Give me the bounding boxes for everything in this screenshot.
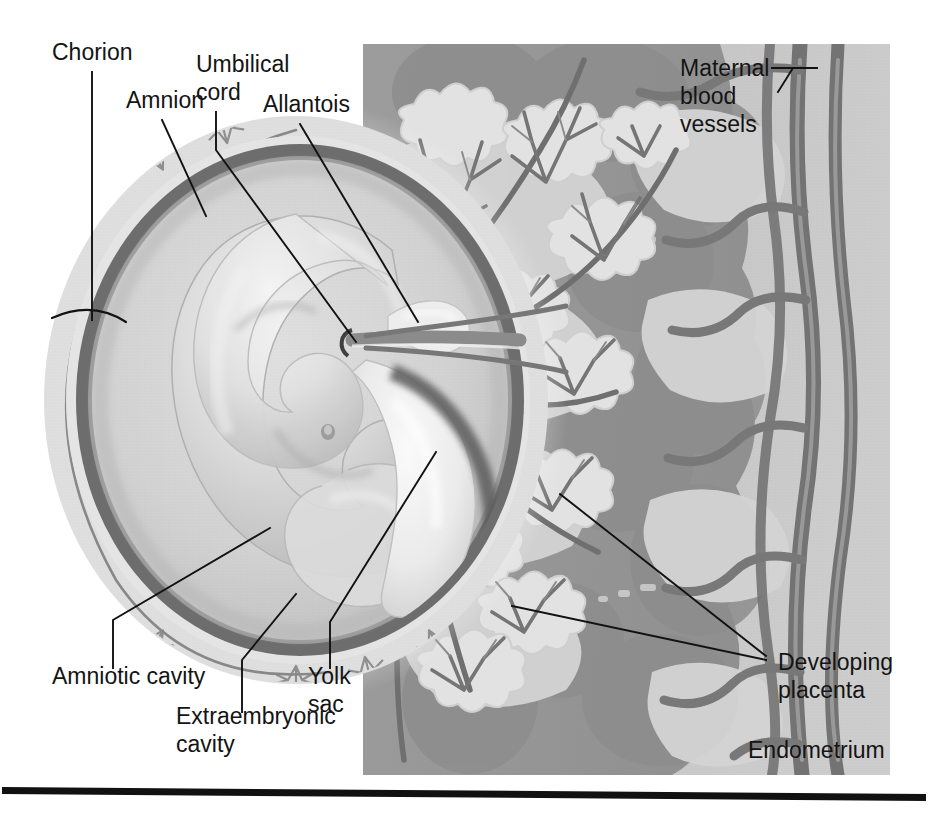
label-endometrium: Endometrium — [748, 737, 885, 763]
label-umbilical-cord-line1: Umbilical — [196, 51, 289, 77]
label-allantois: Allantois — [263, 91, 350, 117]
label-developing-placenta-line2: placenta — [778, 677, 865, 703]
label-maternal-blood-vessels-line1: Maternal — [680, 55, 769, 81]
label-maternal-blood-vessels-line3: vessels — [680, 111, 757, 137]
label-chorion: Chorion — [52, 39, 133, 65]
label-amniotic-cavity: Amniotic cavity — [52, 663, 206, 689]
label-extraembryonic-cavity-line2: cavity — [176, 731, 235, 757]
label-developing-placenta-line1: Developing — [778, 649, 893, 675]
embryo-placenta-figure: Chorion Umbilical cord Amnion Allantois … — [0, 0, 928, 814]
label-maternal-blood-vessels-line2: blood — [680, 83, 736, 109]
label-yolk-sac-line1: Yolk — [308, 663, 351, 689]
label-amnion: Amnion — [126, 87, 204, 113]
label-yolk-sac-line2: sac — [308, 691, 344, 717]
